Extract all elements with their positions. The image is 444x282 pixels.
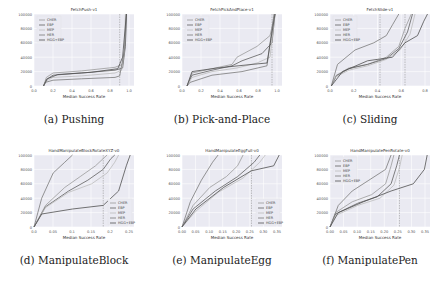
y-tick-label: 40000 — [169, 197, 181, 201]
legend-entry: EBP — [266, 206, 273, 210]
x-tick-label: 1.0 — [274, 89, 280, 93]
x-tick-label: 0.0 — [327, 89, 333, 93]
x-tick-label: 0.4 — [69, 89, 75, 93]
x-tick-label: 0.20 — [232, 230, 241, 234]
y-tick-label: 0 — [30, 85, 33, 89]
y-tick-label: 20000 — [169, 211, 181, 215]
legend-entry: MEP — [343, 169, 350, 173]
y-tick-label: 100000 — [314, 154, 328, 158]
caption-c: (c) Sliding — [296, 113, 444, 125]
chart-title: FetchPickAndPlace-v1 — [210, 7, 254, 12]
legend-entry: HGG+EBP — [266, 221, 283, 225]
y-tick-label: 0 — [30, 226, 33, 230]
chart-b: 0200004000060000800001000000.00.20.40.60… — [148, 0, 296, 112]
x-tick-label: 0.6 — [236, 89, 242, 93]
chart-d: 0200004000060000800001000000.00.050.10.1… — [0, 141, 148, 253]
x-tick-label: 0.15 — [219, 230, 227, 234]
x-tick-label: 0.4 — [217, 89, 223, 93]
legend-entry: EBP — [195, 23, 202, 27]
y-tick-label: 60000 — [169, 41, 181, 45]
legend-entry: HGG+EBP — [343, 38, 360, 42]
legend-entry: MEP — [47, 28, 54, 32]
subplot-e: 0200004000060000800001000000.000.050.100… — [148, 141, 296, 282]
x-tick-label: 0.8 — [107, 89, 113, 93]
x-tick-label: 0.6 — [398, 89, 404, 93]
y-tick-label: 40000 — [317, 197, 329, 201]
x-axis-label: Median Success Rate — [359, 94, 402, 99]
legend-entry: CHER — [47, 18, 57, 22]
caption-e: (e) ManipulateEgg — [148, 254, 296, 266]
y-tick-label: 60000 — [21, 182, 33, 186]
legend-entry: HER — [47, 33, 55, 37]
y-tick-label: 20000 — [317, 211, 329, 215]
legend-entry: HGG+EBP — [118, 221, 135, 225]
legend-entry: CHER — [343, 18, 353, 22]
x-tick-label: 0.15 — [87, 230, 95, 234]
legend-entry: HGG+EBP — [195, 38, 212, 42]
x-axis-label: Median Success Rate — [211, 235, 254, 240]
y-tick-label: 100000 — [314, 13, 328, 17]
legend-entry: MEP — [195, 28, 202, 32]
chart-title: HandManipulateBlockRotateXYZ-v0 — [49, 148, 120, 153]
x-tick-label: 0.05 — [192, 230, 200, 234]
y-tick-label: 0 — [326, 85, 329, 89]
y-tick-label: 60000 — [317, 182, 329, 186]
legend-entry: EBP — [343, 23, 350, 27]
legend-entry: EBP — [47, 23, 54, 27]
legend-entry: HER — [343, 33, 351, 37]
y-tick-label: 40000 — [21, 197, 33, 201]
legend-entry: HGG+EBP — [343, 179, 360, 183]
y-tick-label: 60000 — [169, 182, 181, 186]
legend-entry: HER — [266, 216, 274, 220]
x-tick-label: 0.4 — [375, 89, 381, 93]
x-tick-label: 0.25 — [246, 230, 254, 234]
y-tick-label: 40000 — [21, 56, 33, 60]
x-tick-label: 0.2 — [107, 230, 113, 234]
y-tick-label: 20000 — [21, 211, 33, 215]
y-tick-label: 0 — [178, 85, 181, 89]
y-tick-label: 80000 — [21, 27, 33, 31]
subplot-a: 0200004000060000800001000000.00.20.40.60… — [0, 0, 148, 141]
legend-entry: CHER — [266, 201, 276, 205]
x-tick-label: 1.0 — [126, 89, 132, 93]
x-tick-label: 0.00 — [178, 230, 187, 234]
caption-f: (f) ManipulatePen — [296, 254, 444, 266]
caption-a: (a) Pushing — [0, 113, 148, 125]
x-tick-label: 0.25 — [394, 230, 402, 234]
legend-entry: HER — [118, 216, 126, 220]
y-tick-label: 80000 — [317, 27, 329, 31]
x-tick-label: 0.2 — [50, 89, 56, 93]
legend-entry: CHER — [195, 18, 205, 22]
chart-c: 0200004000060000800001000000.00.20.40.60… — [296, 0, 444, 112]
x-axis-label: Median Success Rate — [211, 94, 254, 99]
x-axis-label: Median Success Rate — [63, 235, 106, 240]
x-tick-label: 0.35 — [421, 230, 429, 234]
x-tick-label: 0.10 — [205, 230, 214, 234]
legend-entry: MEP — [266, 211, 273, 215]
x-axis-label: Median Success Rate — [63, 94, 106, 99]
x-tick-label: 0.00 — [326, 230, 335, 234]
caption-b: (b) Pick-and-Place — [148, 113, 296, 125]
x-axis-label: Median Success Rate — [359, 235, 402, 240]
y-tick-label: 60000 — [317, 41, 329, 45]
chart-e: 0200004000060000800001000000.000.050.100… — [148, 141, 296, 253]
y-tick-label: 20000 — [317, 70, 329, 74]
legend-entry: HER — [195, 33, 203, 37]
legend-entry: CHER — [118, 201, 128, 205]
x-tick-label: 0.8 — [255, 89, 261, 93]
x-tick-label: 0.30 — [259, 230, 268, 234]
y-tick-label: 100000 — [166, 13, 180, 17]
x-tick-label: 0.15 — [367, 230, 375, 234]
x-tick-label: 0.20 — [380, 230, 389, 234]
subplot-b: 0200004000060000800001000000.00.20.40.60… — [148, 0, 296, 141]
subplot-d: 0200004000060000800001000000.00.050.10.1… — [0, 141, 148, 282]
y-tick-label: 20000 — [169, 70, 181, 74]
x-tick-label: 0.25 — [125, 230, 133, 234]
y-tick-label: 40000 — [317, 56, 329, 60]
x-tick-label: 0.05 — [340, 230, 348, 234]
x-tick-label: 0.1 — [69, 230, 75, 234]
legend-entry: MEP — [343, 28, 350, 32]
x-tick-label: 0.2 — [198, 89, 204, 93]
x-tick-label: 0.2 — [351, 89, 357, 93]
y-tick-label: 0 — [326, 226, 329, 230]
